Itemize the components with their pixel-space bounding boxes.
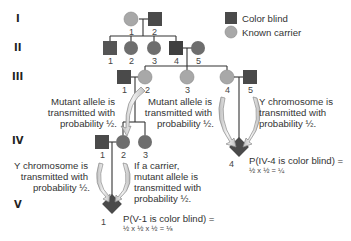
svg-text:probability ½.: probability ½. — [60, 118, 117, 129]
individual-II-4 — [169, 41, 183, 55]
svg-text:probability ½.: probability ½. — [33, 182, 90, 193]
svg-text:transmitted with: transmitted with — [134, 182, 201, 193]
arrow-iii4-to-iv4 — [219, 97, 236, 147]
label-III-4: 4 — [225, 85, 230, 95]
svg-text:Y chromosome is: Y chromosome is — [259, 96, 333, 107]
individual-IV-3 — [138, 135, 152, 149]
generation-label-V: V — [14, 199, 22, 210]
generation-label-II: II — [14, 42, 21, 53]
individual-II-5 — [191, 41, 205, 55]
pedigree-diagram: I II III IV V Color blind Known carrier … — [0, 0, 351, 241]
svg-text:transmitted with: transmitted with — [48, 107, 115, 118]
label-I-1: 1 — [129, 27, 134, 37]
arrow-iii5-to-iv4 — [243, 97, 260, 147]
individual-IV-1 — [95, 135, 109, 149]
svg-text:transmitted with: transmitted with — [145, 107, 212, 118]
individual-III-3 — [180, 70, 194, 84]
probability-iv4: P(IV-4 is color blind) = ½ x ½ = ¼ — [249, 155, 344, 175]
label-III-5: 5 — [248, 85, 253, 95]
legend-color-blind-icon — [225, 12, 237, 24]
generation-label-III: III — [12, 71, 23, 82]
svg-text:Mutant allele is: Mutant allele is — [148, 96, 212, 107]
label-II-3: 3 — [152, 56, 157, 66]
legend-color-blind-label: Color blind — [242, 13, 288, 24]
legend-carrier-icon — [225, 26, 237, 38]
label-III-1: 1 — [122, 85, 127, 95]
label-II-5: 5 — [196, 56, 201, 66]
label-III-3: 3 — [185, 85, 190, 95]
individual-I-1 — [124, 12, 138, 26]
label-V-1: 1 — [101, 217, 106, 227]
generation-I: 1 2 — [110, 12, 176, 41]
individual-III-2 — [138, 70, 152, 84]
individual-III-5 — [243, 70, 257, 84]
annotation-iii5: Y chromosome is transmitted with probabi… — [259, 96, 333, 129]
annotation-iii4: Mutant allele is transmitted with probab… — [145, 96, 214, 129]
svg-text:probability ½.: probability ½. — [134, 193, 191, 204]
individual-II-1 — [103, 41, 117, 55]
svg-text:P(IV-4 is color blind) =: P(IV-4 is color blind) = — [249, 155, 344, 166]
generation-label-I: I — [16, 13, 20, 24]
svg-text:½ x ½ = ¼: ½ x ½ = ¼ — [249, 166, 285, 175]
svg-text:probability ½.: probability ½. — [157, 118, 214, 129]
svg-text:If a carrier,: If a carrier, — [134, 160, 179, 171]
label-II-2: 2 — [129, 56, 134, 66]
generation-label-IV: IV — [12, 135, 24, 146]
label-IV-4: 4 — [229, 159, 234, 169]
individual-III-1 — [117, 70, 131, 84]
annotation-iv1: Y chromosome is transmitted with probabi… — [14, 160, 90, 193]
probability-v1: P(V-1 is color blind) = ½ x ½ x ½ = ⅛ — [123, 213, 215, 233]
svg-text:probability ½.: probability ½. — [259, 118, 316, 129]
label-II-4: 4 — [174, 56, 179, 66]
svg-text:transmitted with: transmitted with — [259, 107, 326, 118]
individual-II-2 — [124, 41, 138, 55]
legend: Color blind Known carrier — [225, 12, 302, 38]
annotation-iv2: If a carrier, mutant allele is transmitt… — [134, 160, 201, 204]
label-II-1: 1 — [108, 56, 113, 66]
generation-II: 1 2 3 4 5 — [103, 41, 227, 70]
label-IV-1: 1 — [100, 150, 105, 160]
individual-II-3 — [147, 41, 161, 55]
label-IV-3: 3 — [143, 150, 148, 160]
arrow-iv1-to-v1 — [97, 163, 110, 202]
label-III-2: 2 — [145, 85, 150, 95]
arrow-iv2-to-v1 — [115, 163, 130, 202]
annotation-iii2: Mutant allele is transmitted with probab… — [48, 96, 117, 129]
svg-text:P(V-1 is color blind) =: P(V-1 is color blind) = — [123, 213, 215, 224]
svg-text:Mutant allele is: Mutant allele is — [51, 96, 115, 107]
individual-IV-2 — [116, 135, 130, 149]
svg-text:transmitted with: transmitted with — [21, 171, 88, 182]
individual-III-4 — [220, 70, 234, 84]
legend-carrier-label: Known carrier — [242, 27, 302, 38]
label-I-2: 2 — [152, 27, 157, 37]
svg-text:mutant allele is: mutant allele is — [134, 171, 198, 182]
individual-I-2 — [148, 12, 162, 26]
svg-text:½ x ½ x ½ = ⅛: ½ x ½ x ½ = ⅛ — [123, 224, 173, 233]
label-IV-2: 2 — [121, 150, 126, 160]
svg-text:Y chromosome is: Y chromosome is — [14, 160, 88, 171]
